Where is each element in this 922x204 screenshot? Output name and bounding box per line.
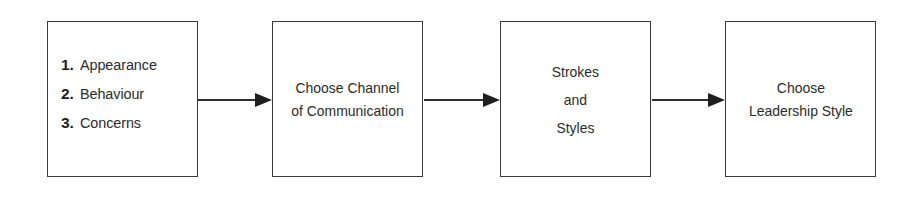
caption-line: Leadership Style [749,103,853,118]
caption-line: Styles [552,120,599,135]
arrow-head-icon [708,93,725,107]
caption-line: Strokes [552,64,599,79]
list-item: 3. Concerns [61,114,146,143]
list-item: 2. Behaviour [61,85,149,114]
flowchart-node-strokes-and-styles: Strokes and Styles [500,21,651,177]
caption-line: Choose [749,80,853,95]
list-item-number: 2. [61,85,80,103]
numbered-list: 1. Appearance 2. Behaviour 3. Concerns [48,56,197,143]
flowchart-node-choose-leadership-style: Choose Leadership Style [725,21,876,177]
list-item: 1. Appearance [61,56,163,85]
node-caption: Choose Leadership Style [745,72,857,126]
list-item-number: 3. [61,114,80,132]
arrow-shaft [198,99,258,101]
flowchart-arrow-2 [424,93,500,108]
arrow-head-icon [483,93,500,107]
arrow-shaft [652,99,711,101]
flowchart-node-choose-channel: Choose Channel of Communication [272,21,423,177]
flowchart-arrow-1 [198,93,272,108]
flowchart-node-appearance-behaviour-concerns: 1. Appearance 2. Behaviour 3. Concerns [47,21,198,177]
caption-line: and [552,92,599,107]
list-item-number: 1. [61,56,80,74]
node-caption: Strokes and Styles [550,51,601,148]
caption-line: of Communication [291,103,403,118]
flowchart-arrow-3 [652,93,725,108]
arrow-shaft [424,99,486,101]
caption-line: Choose Channel [291,80,403,95]
arrow-head-icon [255,93,272,107]
list-item-label: Concerns [80,114,141,132]
list-item-label: Behaviour [80,85,144,103]
list-item-label: Appearance [80,56,157,74]
flowchart-diagram: 1. Appearance 2. Behaviour 3. Concerns C… [0,0,922,204]
node-caption: Choose Channel of Communication [287,72,408,126]
